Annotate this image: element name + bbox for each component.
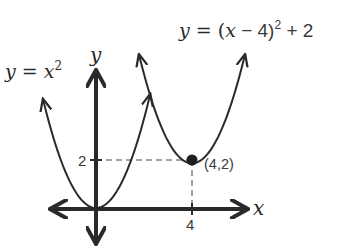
x-axis-label: x [253, 196, 264, 220]
curve-translated-parabola [139, 55, 245, 163]
translated-equation-label: y = (x − 4)2 + 2 [178, 18, 313, 41]
vertex-point [187, 155, 198, 166]
y-axis-label: y [89, 43, 102, 67]
vertex-label: (4,2) [204, 156, 234, 172]
parent-equation-label: y = x2 [4, 59, 62, 82]
parabola-translation-diagram: x y 4 2 (4,2) y = x2 y = (x − 4)2 + 2 [0, 0, 363, 252]
y-tick-label-2: 2 [78, 152, 86, 169]
x-tick-label-4: 4 [186, 216, 194, 233]
